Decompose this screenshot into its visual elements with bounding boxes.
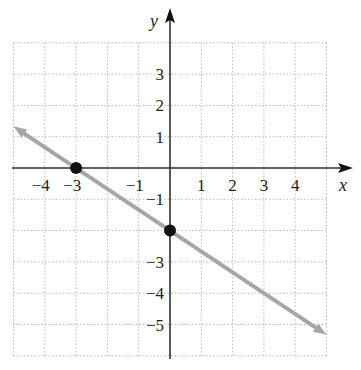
y-tick-label: −5	[146, 316, 164, 335]
x-tick-label: 2	[228, 176, 237, 195]
intercept-point	[164, 225, 176, 237]
coordinate-plane: −4−3−11234321−1−3−4−5 x y	[0, 0, 361, 370]
y-tick-label: 2	[156, 96, 165, 115]
x-tick-label: 1	[197, 176, 206, 195]
y-tick-label: −1	[146, 190, 164, 209]
y-tick-label: 1	[156, 128, 165, 147]
x-axis-label: x	[338, 175, 347, 195]
y-tick-label: −3	[146, 253, 164, 272]
x-tick-label: 3	[260, 176, 269, 195]
y-axis-label: y	[148, 11, 158, 31]
x-tick-label: −3	[63, 176, 81, 195]
x-tick-label: −1	[126, 176, 144, 195]
x-tick-label: 4	[291, 176, 300, 195]
intercept-point	[70, 162, 82, 174]
y-tick-label: 3	[156, 65, 165, 84]
y-tick-label: −4	[146, 284, 165, 303]
x-tick-label: −4	[32, 176, 51, 195]
